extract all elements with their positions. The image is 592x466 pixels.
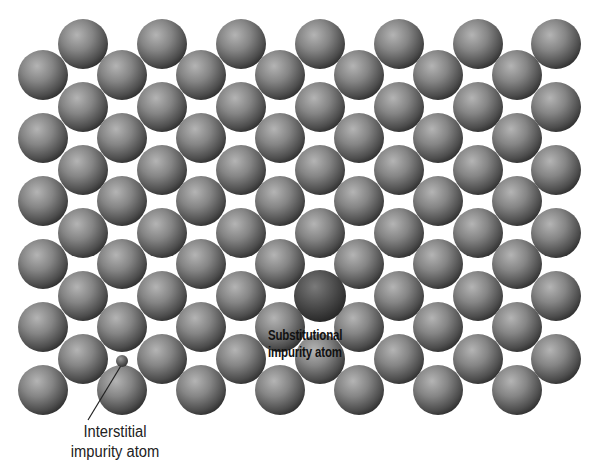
host-atom <box>413 50 463 100</box>
host-atom <box>216 271 266 321</box>
host-atom <box>137 334 187 384</box>
host-atom <box>531 19 581 69</box>
host-atom <box>18 50 68 100</box>
host-atom <box>216 19 266 69</box>
host-atom <box>58 271 108 321</box>
host-atom <box>137 19 187 69</box>
atomic-lattice-diagram <box>0 0 592 466</box>
host-atom <box>137 208 187 258</box>
host-atom <box>137 82 187 132</box>
host-atom <box>531 82 581 132</box>
host-atom <box>492 239 542 289</box>
host-atom <box>176 50 226 100</box>
interstitial-label-line1: Interstitial <box>46 422 184 442</box>
host-atom <box>137 271 187 321</box>
host-atom <box>413 365 463 415</box>
host-atom <box>374 145 424 195</box>
host-atom <box>255 50 305 100</box>
host-atom <box>58 19 108 69</box>
host-atom <box>531 208 581 258</box>
host-atom <box>97 365 147 415</box>
host-atom <box>453 271 503 321</box>
host-atom <box>453 19 503 69</box>
host-atom <box>295 208 345 258</box>
host-atom <box>18 176 68 226</box>
host-atom <box>176 239 226 289</box>
host-atom <box>453 145 503 195</box>
host-atom <box>374 82 424 132</box>
host-atom <box>413 176 463 226</box>
host-atom <box>374 19 424 69</box>
host-atom <box>18 113 68 163</box>
host-atom <box>413 239 463 289</box>
host-atom <box>334 365 384 415</box>
host-atom <box>18 302 68 352</box>
host-atom <box>531 271 581 321</box>
substitutional-label-line1: Substitutional <box>268 327 342 344</box>
host-atom <box>531 334 581 384</box>
host-atom <box>374 334 424 384</box>
interstitial-label: Interstitial impurity atom <box>46 422 184 462</box>
host-atom <box>216 334 266 384</box>
host-atom <box>453 208 503 258</box>
host-atom <box>18 239 68 289</box>
substitutional-impurity-atom <box>294 270 346 322</box>
host-atom <box>176 176 226 226</box>
host-atom <box>255 176 305 226</box>
host-atom <box>295 82 345 132</box>
substitutional-label-line2: impurity atom <box>268 344 342 361</box>
host-atom <box>492 176 542 226</box>
host-atom <box>374 208 424 258</box>
host-atom <box>58 145 108 195</box>
host-atom <box>97 239 147 289</box>
host-atom <box>137 145 187 195</box>
host-atom <box>492 365 542 415</box>
host-atom <box>453 82 503 132</box>
host-atom <box>374 271 424 321</box>
host-atom <box>255 239 305 289</box>
host-atom <box>97 176 147 226</box>
host-atom <box>492 302 542 352</box>
host-atom <box>492 113 542 163</box>
host-atom <box>58 82 108 132</box>
host-atom <box>413 302 463 352</box>
interstitial-impurity-atom <box>116 355 128 367</box>
host-atom <box>97 113 147 163</box>
host-atom <box>18 365 68 415</box>
host-atom <box>531 145 581 195</box>
host-atom <box>295 19 345 69</box>
host-atom <box>176 365 226 415</box>
host-atom <box>216 208 266 258</box>
host-atom <box>453 334 503 384</box>
host-atom <box>97 302 147 352</box>
host-atom <box>492 50 542 100</box>
host-atom <box>176 302 226 352</box>
host-atom <box>334 176 384 226</box>
host-atom <box>97 50 147 100</box>
host-atom <box>334 50 384 100</box>
substitutional-label: Substitutional impurity atom <box>268 327 342 361</box>
host-atom <box>295 145 345 195</box>
host-atom <box>216 82 266 132</box>
host-atom <box>413 113 463 163</box>
host-atom <box>334 113 384 163</box>
host-atom <box>176 113 226 163</box>
host-atom <box>216 145 266 195</box>
interstitial-label-line2: impurity atom <box>46 442 184 462</box>
host-atom <box>255 365 305 415</box>
host-atom <box>255 113 305 163</box>
host-atom <box>58 334 108 384</box>
host-atom <box>58 208 108 258</box>
